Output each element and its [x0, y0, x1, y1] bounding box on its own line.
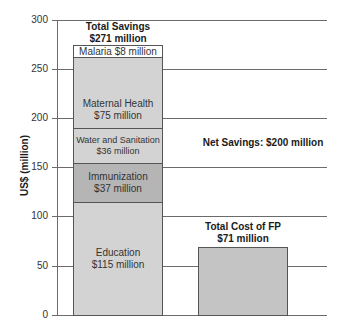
bar-total-cost-fp [198, 247, 288, 316]
education-label: Education [96, 247, 140, 259]
maternal-health-label: Maternal Health [83, 98, 154, 110]
segment-water-sanitation: Water and Sanitation $36 million [73, 128, 163, 164]
segment-education: Education $115 million [73, 202, 163, 316]
y-axis-line [57, 20, 58, 316]
education-value: $115 million [92, 259, 145, 271]
ytick-250: 250 [24, 63, 48, 74]
water-sanitation-label: Water and Sanitation [76, 135, 160, 146]
total-cost-fp-annotation: Total Cost of FP $71 million [188, 221, 298, 245]
ytick-200: 200 [24, 112, 48, 123]
total-cost-fp-title: Total Cost of FP [188, 221, 298, 233]
segment-malaria: Malaria $8 million [73, 45, 163, 58]
segment-maternal-health: Maternal Health $75 million [73, 57, 163, 129]
total-savings-value: $271 million [68, 33, 168, 45]
y-axis-label: US$ (million) [19, 126, 30, 206]
maternal-health-value: $75 million [94, 110, 142, 122]
total-cost-fp-value: $71 million [188, 233, 298, 245]
total-savings-title: Total Savings [68, 21, 168, 33]
water-sanitation-value: $36 million [96, 146, 139, 157]
malaria-label: Malaria $8 million [79, 46, 157, 57]
net-savings-annotation: Net Savings: $200 million [188, 137, 338, 149]
ytick-0: 0 [24, 309, 48, 320]
immunization-label: Immunization [88, 171, 147, 183]
total-savings-annotation: Total Savings $271 million [68, 21, 168, 45]
segment-immunization: Immunization $37 million [73, 163, 163, 203]
immunization-value: $37 million [94, 183, 142, 195]
ytick-100: 100 [24, 210, 48, 221]
ytick-50: 50 [24, 260, 48, 271]
ytick-300: 300 [24, 14, 48, 25]
